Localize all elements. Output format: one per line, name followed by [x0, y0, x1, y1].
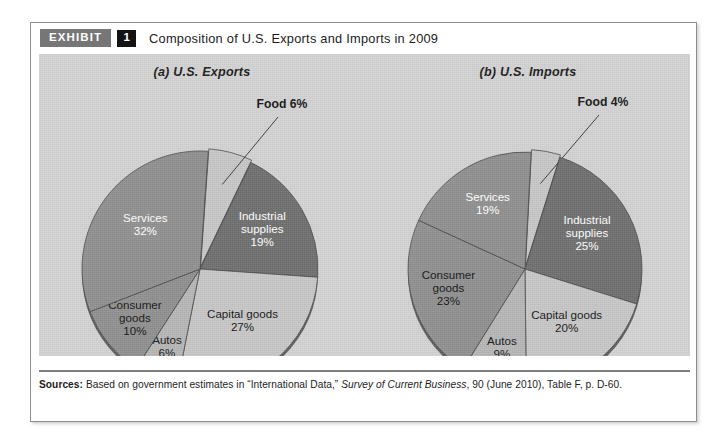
exhibit-title: Composition of U.S. Exports and Imports …: [149, 31, 438, 46]
sources-text-after: , 90 (June 2010), Table F, p. D-60.: [467, 379, 623, 390]
pie-chart-imports: (b) U.S. Imports Food 4%Industrialsuppli…: [365, 54, 690, 356]
sources-divider: [39, 370, 690, 372]
chart-panel: (a) U.S. Exports Food 6%Industrialsuppli…: [39, 54, 690, 356]
exhibit-figure: EXHIBIT 1 Composition of U.S. Exports an…: [30, 22, 697, 422]
exhibit-header: EXHIBIT 1 Composition of U.S. Exports an…: [31, 23, 696, 53]
pie-chart-exports: (a) U.S. Exports Food 6%Industrialsuppli…: [39, 54, 365, 356]
sources-text-before: Based on government estimates in “Intern…: [83, 379, 341, 390]
sources-note: Sources: Based on government estimates i…: [39, 378, 690, 392]
pie-svg-imports: Food 4%Industrialsupplies25%Capital good…: [365, 54, 690, 356]
exhibit-badge: EXHIBIT: [40, 29, 111, 47]
sources-publication: Survey of Current Business: [341, 379, 466, 390]
exhibit-number-badge: 1: [117, 30, 136, 47]
pie-callout-label: Food 4%: [578, 95, 629, 109]
pie-callout-label: Food 6%: [257, 97, 308, 111]
sources-label: Sources:: [39, 379, 83, 390]
pie-svg-exports: Food 6%Industrialsupplies19%Capital good…: [39, 54, 365, 356]
